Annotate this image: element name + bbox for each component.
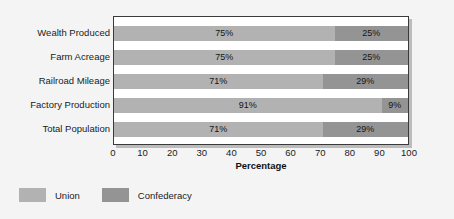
x-axis-title: Percentage: [113, 160, 409, 171]
bar-value-label: 71%: [209, 125, 227, 134]
bar-row[interactable]: 71%29%: [114, 74, 408, 89]
chart-legend: UnionConfederacy: [19, 187, 214, 203]
bar-segment-confederacy[interactable]: 29%: [323, 122, 408, 137]
bar-value-label: 29%: [356, 125, 374, 134]
category-axis-labels: Wealth ProducedFarm AcreageRailroad Mile…: [4, 25, 110, 143]
bar-row[interactable]: 71%29%: [114, 122, 408, 137]
legend-label: Confederacy: [138, 190, 192, 201]
x-tick-label: 90: [374, 147, 385, 158]
bar-segment-union[interactable]: 91%: [114, 98, 382, 113]
bar-value-label: 75%: [215, 29, 233, 38]
plot-frame: 75%25%75%25%71%29%91%9%71%29%: [113, 16, 409, 145]
x-tick-label: 70: [315, 147, 326, 158]
bar-segment-union[interactable]: 75%: [114, 26, 335, 41]
category-label: Factory Production: [4, 100, 110, 110]
legend-item[interactable]: Union: [19, 188, 80, 202]
category-label: Farm Acreage: [4, 52, 110, 62]
bar-row[interactable]: 75%25%: [114, 26, 408, 41]
x-tick-label: 40: [226, 147, 237, 158]
bar-segment-confederacy[interactable]: 25%: [335, 50, 409, 65]
bar-segment-confederacy[interactable]: 9%: [382, 98, 408, 113]
x-tick-label: 20: [167, 147, 178, 158]
bar-value-label: 75%: [215, 53, 233, 62]
category-label: Total Population: [4, 124, 110, 134]
x-tick-label: 0: [110, 147, 115, 158]
bar-value-label: 25%: [362, 29, 380, 38]
x-tick-label: 60: [285, 147, 296, 158]
category-label: Wealth Produced: [4, 28, 110, 38]
bar-value-label: 91%: [239, 101, 257, 110]
x-tick-label: 50: [256, 147, 267, 158]
bar-segment-confederacy[interactable]: 29%: [323, 74, 408, 89]
bar-value-label: 25%: [362, 53, 380, 62]
legend-item[interactable]: Confederacy: [102, 188, 192, 202]
bar-row[interactable]: 91%9%: [114, 98, 408, 113]
bar-segment-confederacy[interactable]: 25%: [335, 26, 409, 41]
x-tick-label: 80: [345, 147, 356, 158]
bar-value-label: 29%: [356, 77, 374, 86]
bar-segment-union[interactable]: 75%: [114, 50, 335, 65]
bar-segment-union[interactable]: 71%: [114, 122, 323, 137]
bar-row[interactable]: 75%25%: [114, 50, 408, 65]
bar-value-label: 71%: [209, 77, 227, 86]
legend-swatch: [19, 188, 46, 202]
legend-label: Union: [55, 190, 80, 201]
bar-value-label: 9%: [388, 101, 401, 110]
legend-swatch: [102, 188, 129, 202]
x-axis-ticks: 0102030405060708090100: [113, 147, 409, 161]
category-label: Railroad Mileage: [4, 76, 110, 86]
bar-segment-union[interactable]: 71%: [114, 74, 323, 89]
x-tick-label: 100: [401, 147, 417, 158]
plot-area: 75%25%75%25%71%29%91%9%71%29%: [114, 17, 408, 144]
x-tick-label: 30: [197, 147, 208, 158]
x-tick-label: 10: [137, 147, 148, 158]
chart-figure: Wealth ProducedFarm AcreageRailroad Mile…: [0, 0, 454, 219]
